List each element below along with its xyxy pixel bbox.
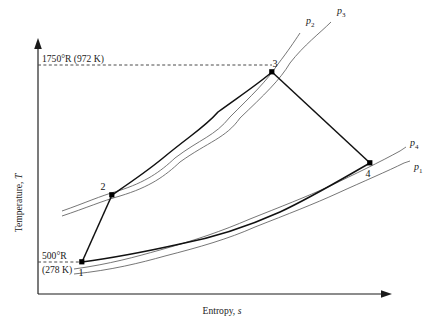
x-axis-title-symbol: s	[238, 305, 242, 316]
state-point-3-marker	[269, 69, 274, 74]
lower-temperature-label-line1: 500°R	[42, 250, 67, 261]
cycle-process-group	[82, 72, 370, 262]
state-point-1-label: 1	[79, 267, 84, 278]
pressure-label-p3: p3	[336, 5, 346, 19]
pressure-label-p2: p2	[305, 15, 315, 29]
pressure-label-p3-subscript: 3	[342, 11, 346, 19]
state-point-labels: 1 2 3 4	[79, 58, 371, 278]
pressure-labels-group: p2 p3 p4 p1	[305, 5, 423, 175]
y-axis-arrowhead	[34, 38, 42, 49]
x-axis-arrowhead	[381, 290, 392, 298]
state-point-4-label: 4	[366, 168, 371, 179]
lower-temperature-label-line2: (278 K)	[42, 264, 72, 276]
y-axis-title: Temperature, T	[13, 173, 24, 232]
x-axis-title: Entropy, s	[203, 305, 242, 316]
y-axis-title-symbol: T	[13, 173, 24, 179]
pressure-label-p4-subscript: 4	[415, 143, 419, 151]
process-1-2-line	[82, 195, 112, 262]
ts-diagram-svg: 1 2 3 4 p2 p3 p4 p1 1750°R (972 K) 500°R…	[0, 0, 436, 329]
state-point-2-marker	[109, 192, 114, 197]
leader-p1	[404, 161, 410, 163]
process-2-3-curve	[112, 72, 272, 195]
pressure-label-p1-subscript: 1	[419, 167, 423, 175]
state-point-2-label: 2	[101, 181, 106, 192]
pressure-label-p4: p4	[409, 137, 419, 151]
temperature-annotations: 1750°R (972 K) 500°R (278 K)	[42, 53, 104, 276]
state-point-3-label: 3	[273, 58, 278, 69]
state-point-1-marker	[79, 259, 84, 264]
isobar-p4-curve	[74, 151, 400, 269]
y-axis-title-text: Temperature,	[13, 179, 24, 232]
pressure-label-leaders	[400, 147, 410, 163]
upper-temperature-label: 1750°R (972 K)	[42, 53, 104, 65]
pressure-label-p1: p1	[413, 161, 423, 175]
x-axis-title-text: Entropy,	[203, 305, 238, 316]
axes-group	[34, 38, 392, 298]
isobar-p1-curve	[74, 163, 404, 274]
isobar-curves-group	[62, 22, 404, 274]
process-4-1-curve	[82, 163, 370, 262]
state-point-4-marker	[367, 160, 372, 165]
state-point-markers	[79, 69, 372, 264]
ts-diagram-figure: 1 2 3 4 p2 p3 p4 p1 1750°R (972 K) 500°R…	[0, 0, 436, 329]
pressure-label-p2-subscript: 2	[311, 21, 315, 29]
process-3-4-line	[272, 72, 370, 163]
leader-p4	[400, 147, 406, 151]
